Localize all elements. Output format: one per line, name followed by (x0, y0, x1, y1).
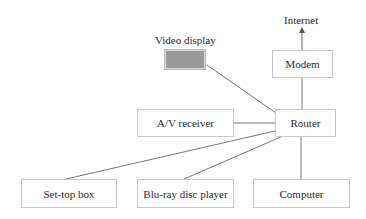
set-top-box-node: Set-top box (21, 179, 117, 208)
router-settop-line (66, 131, 275, 179)
modem-node: Modem (272, 50, 333, 78)
video-display-label: Video display (155, 34, 216, 46)
internet-label: Internet (284, 14, 318, 26)
bluray-player-node: Blu-ray disc player (137, 179, 234, 208)
router-display-line (207, 65, 276, 113)
router-node: Router (275, 109, 336, 137)
router-bluray-line (184, 136, 283, 179)
video-display-icon (164, 49, 206, 70)
av-receiver-node: A/V receiver (137, 109, 234, 137)
computer-node: Computer (253, 179, 350, 208)
